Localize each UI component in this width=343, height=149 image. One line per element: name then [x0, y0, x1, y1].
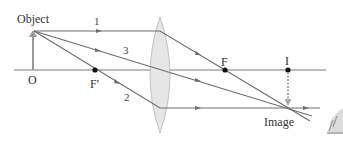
focal-front-label: F′ [90, 78, 99, 90]
ray-2-arrow-icon [114, 79, 120, 84]
focal-point-front [92, 67, 97, 72]
ray-1-arrow-icon-2 [195, 51, 201, 55]
image-point [285, 67, 290, 72]
ray-2-arrow-icon-3 [303, 106, 309, 110]
ray-1-arrow-icon [96, 29, 102, 33]
object-arrow [29, 30, 37, 70]
image-label: Image [264, 116, 294, 128]
origin-label: O [28, 74, 37, 86]
image-point-label: I [285, 55, 289, 67]
ray-1-label: 1 [94, 16, 100, 27]
ray-2-arrow-icon-2 [195, 106, 201, 110]
object-label: Object [17, 13, 49, 25]
observer-eye-icon [327, 108, 343, 134]
ray-3-label: 3 [123, 45, 129, 56]
ray-2-label: 2 [124, 92, 130, 103]
ray-3 [34, 31, 312, 116]
focal-back-label: F [221, 56, 228, 68]
image-arrow [285, 72, 292, 106]
converging-lens [150, 17, 170, 133]
